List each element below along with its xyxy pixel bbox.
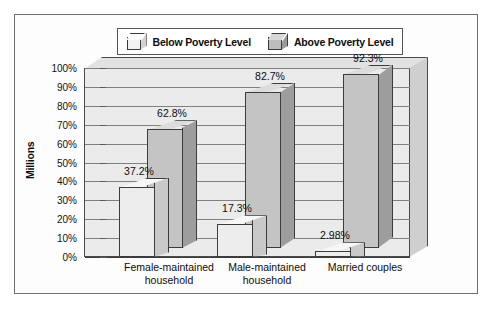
chart-figure-frame: Below Poverty Level Above Poverty Level …	[14, 14, 478, 294]
bar-below-poverty-level[interactable]	[315, 251, 351, 257]
bar-value-label: 92.3%	[353, 52, 383, 64]
bar-value-label: 37.2%	[124, 165, 154, 177]
bar-value-label: 17.3%	[222, 202, 252, 214]
x-axis-category-label: Male-maintained household	[228, 261, 306, 286]
bar-series-group: 62.8%37.2%82.7%17.3%92.3%2.98%	[15, 15, 479, 295]
bar-value-label: 82.7%	[255, 70, 285, 82]
bar-value-label: 2.98%	[320, 229, 350, 241]
x-axis-category-label: Female-maintained household	[124, 261, 214, 286]
bar-below-poverty-level[interactable]	[217, 224, 253, 257]
bar-above-poverty-level[interactable]	[343, 74, 379, 248]
bar-below-poverty-level[interactable]	[119, 187, 155, 257]
bar-value-label: 62.8%	[157, 107, 187, 119]
x-axis-category-label: Married couples	[328, 261, 403, 274]
